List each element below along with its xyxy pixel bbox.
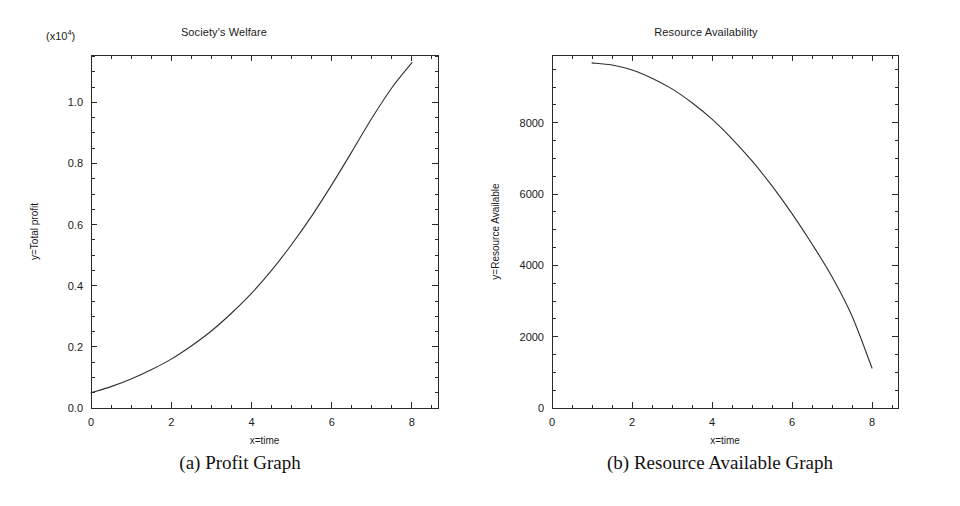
- chart-panel-resource: Resource Availability 024680200040006000…: [480, 0, 960, 446]
- plot-resource: 0246802000400060008000x=timey=Resource A…: [480, 0, 960, 446]
- x-tick-label: 0: [549, 416, 555, 428]
- caption-profit-graph: (a) Profit Graph: [0, 452, 480, 474]
- plot-frame: [552, 55, 898, 408]
- y-tick-label: 6000: [520, 188, 544, 200]
- y-tick-label: 4000: [520, 259, 544, 271]
- figure-row: (x104) Society's Welfare 024680.00.20.40…: [0, 0, 960, 446]
- caption-row: (a) Profit Graph (b) Resource Available …: [0, 446, 960, 506]
- y-tick-label: 2000: [520, 331, 544, 343]
- y-tick-label: 0: [538, 402, 544, 414]
- x-tick-label: 4: [248, 416, 254, 428]
- data-series-resource-available: [592, 63, 872, 368]
- y-tick-label: 8000: [520, 117, 544, 129]
- x-tick-label: 2: [629, 416, 635, 428]
- x-tick-label: 8: [869, 416, 875, 428]
- x-axis-label: x=time: [710, 435, 740, 446]
- plot-profit: 024680.00.20.40.60.81.0x=timey=Total pro…: [0, 0, 480, 446]
- caption-resource-graph: (b) Resource Available Graph: [480, 452, 960, 474]
- y-axis-label: y=Resource Available: [490, 183, 501, 280]
- data-series-total-profit: [91, 63, 412, 393]
- x-axis-label: x=time: [250, 435, 280, 446]
- x-tick-label: 6: [789, 416, 795, 428]
- y-tick-label: 0.2: [68, 341, 83, 353]
- chart-panel-profit: (x104) Society's Welfare 024680.00.20.40…: [0, 0, 480, 446]
- y-tick-label: 1.0: [68, 96, 83, 108]
- y-tick-label: 0.0: [68, 402, 83, 414]
- y-axis-label: y=Total profit: [29, 203, 40, 260]
- x-tick-label: 8: [409, 416, 415, 428]
- x-tick-label: 2: [168, 416, 174, 428]
- x-tick-label: 6: [329, 416, 335, 428]
- y-tick-label: 0.8: [68, 157, 83, 169]
- y-tick-label: 0.4: [68, 280, 83, 292]
- y-tick-label: 0.6: [68, 219, 83, 231]
- x-tick-label: 0: [88, 416, 94, 428]
- x-tick-label: 4: [709, 416, 715, 428]
- plot-frame: [91, 55, 438, 408]
